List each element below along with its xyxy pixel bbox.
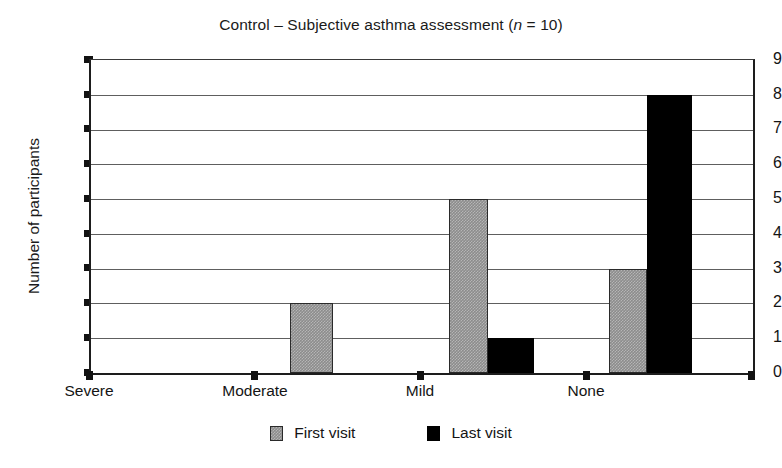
x-tick-mark-3	[583, 371, 590, 380]
y-tick-label-4: 4	[758, 225, 782, 241]
x-tick-label-mild: Mild	[335, 382, 505, 400]
bar-moderate-first-visit	[290, 303, 333, 373]
x-tick-label-moderate: Moderate	[170, 382, 340, 400]
y-tick-label-8: 8	[758, 86, 782, 102]
x-tick-mark-0	[86, 371, 93, 380]
y-tick-label-9: 9	[758, 51, 782, 67]
bar-mild-last-visit	[488, 338, 534, 373]
x-tick-label-none: None	[501, 382, 671, 400]
legend-label-first-visit: First visit	[294, 424, 355, 442]
chart-title-prefix: Control – Subjective asthma assessment (	[219, 16, 513, 33]
y-tick-label-7: 7	[758, 120, 782, 136]
bar-none-first-visit	[609, 269, 647, 373]
legend-item-last-visit: Last visit	[427, 424, 511, 442]
legend-swatch-last-visit-icon	[427, 426, 440, 441]
y-tick-label-2: 2	[758, 294, 782, 310]
x-tick-mark-4	[748, 371, 755, 380]
chart-figure: Control – Subjective asthma assessment (…	[0, 0, 782, 468]
y-tick-label-6: 6	[758, 155, 782, 171]
legend-label-last-visit: Last visit	[451, 424, 511, 442]
y-tick-label-3: 3	[758, 260, 782, 276]
chart-title: Control – Subjective asthma assessment (…	[0, 16, 782, 34]
x-tick-mark-2	[417, 371, 424, 380]
plot-area	[89, 59, 755, 375]
chart-title-italic-n: n	[513, 16, 522, 33]
y-tick-label-1: 1	[758, 329, 782, 345]
bar-none-last-visit	[647, 95, 692, 373]
x-tick-mark-1	[251, 371, 258, 380]
x-tick-label-severe: Severe	[4, 382, 174, 400]
bar-mild-first-visit	[449, 199, 488, 373]
chart-title-suffix: = 10)	[522, 16, 563, 33]
y-tick-label-0: 0	[758, 364, 782, 380]
chart-legend: First visit Last visit	[0, 424, 782, 442]
legend-item-first-visit: First visit	[270, 424, 355, 442]
legend-swatch-first-visit-icon	[270, 426, 283, 441]
y-tick-label-5: 5	[758, 190, 782, 206]
y-axis-title: Number of participants	[25, 91, 43, 341]
